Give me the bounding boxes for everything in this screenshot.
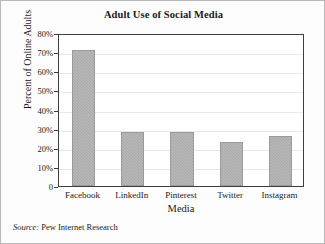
bar-slot (121, 35, 144, 186)
y-axis-tick-label: 70% (13, 49, 53, 58)
y-axis-tick-label: 80% (13, 30, 53, 39)
x-axis-tick-label: Instagram (255, 190, 304, 200)
source-note: Source: Pew Internet Research (13, 222, 118, 232)
source-label: Source: (13, 222, 39, 232)
y-axis-tick-label: 30% (13, 126, 53, 135)
x-axis-title: Media (58, 203, 304, 214)
x-axis-tick-label: Twitter (206, 190, 255, 200)
x-axis-tick-label: LinkedIn (107, 190, 156, 200)
bar-slot (170, 35, 193, 186)
y-axis-tick-label: 20% (13, 145, 53, 154)
y-axis-tick-label: 40% (13, 107, 53, 116)
plot-area (58, 34, 304, 187)
bar-instagram[interactable] (269, 136, 292, 186)
y-axis-tick-mark (54, 187, 58, 188)
y-axis-tick-label: 10% (13, 164, 53, 173)
y-axis-tick-label: 0 (13, 183, 53, 192)
chart-figure: Adult Use of Social Media Percent of Onl… (0, 0, 325, 244)
bar-pinterest[interactable] (170, 132, 193, 186)
source-text: Pew Internet Research (41, 222, 117, 232)
x-axis-tick-label: Facebook (58, 190, 107, 200)
bar-slot (269, 35, 292, 186)
y-axis-tick-label: 60% (13, 68, 53, 77)
bar-series (59, 35, 303, 186)
chart-title: Adult Use of Social Media (1, 9, 325, 20)
x-axis-tick-label: Pinterest (156, 190, 205, 200)
bar-facebook[interactable] (72, 50, 95, 186)
y-axis-tick-label: 50% (13, 87, 53, 96)
bar-slot (72, 35, 95, 186)
bar-twitter[interactable] (220, 142, 243, 186)
bar-linkedin[interactable] (121, 132, 144, 186)
bar-slot (220, 35, 243, 186)
